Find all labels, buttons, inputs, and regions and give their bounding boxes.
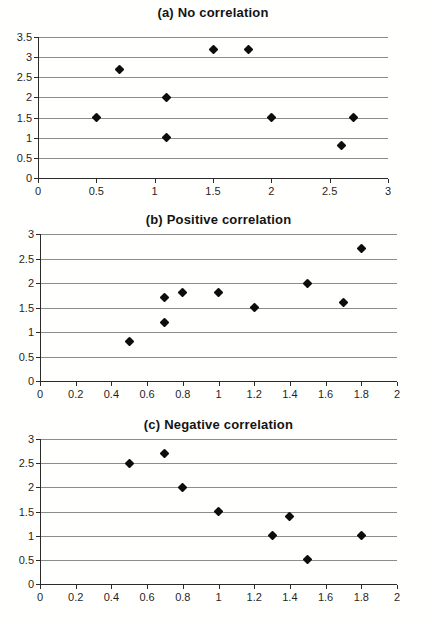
- data-point-diamond: [356, 244, 366, 254]
- gridline: [40, 308, 397, 309]
- data-point-diamond: [178, 482, 188, 492]
- data-point-diamond: [91, 113, 101, 123]
- gridline: [38, 37, 388, 38]
- y-axis-tick-label: 2: [0, 277, 34, 289]
- data-point-diamond: [249, 303, 259, 313]
- y-axis-tick-label: 2: [0, 91, 32, 103]
- x-axis-tick: [361, 585, 362, 589]
- y-axis-tick-label: 3.5: [0, 31, 32, 43]
- x-axis-tick: [213, 179, 214, 183]
- data-point-diamond: [356, 531, 366, 541]
- data-point-diamond: [338, 298, 348, 308]
- y-axis-tick: [34, 97, 38, 98]
- y-axis-tick-label: 1.5: [0, 112, 32, 124]
- y-axis-line: [40, 234, 41, 381]
- gridline: [40, 487, 397, 488]
- x-axis-tick: [183, 585, 184, 589]
- y-axis-tick-label: 3: [0, 51, 32, 63]
- data-point-diamond: [266, 113, 276, 123]
- data-point-diamond: [160, 293, 170, 303]
- y-axis-tick: [34, 118, 38, 119]
- gridline: [38, 77, 388, 78]
- chart-c-plot-area: 00.511.522.5300.20.40.60.811.21.41.61.82: [40, 439, 397, 584]
- y-axis-tick-label: 2.5: [0, 253, 34, 265]
- y-axis-tick-label: 2: [0, 481, 34, 493]
- gridline: [40, 439, 397, 440]
- y-axis-tick: [34, 77, 38, 78]
- data-point-diamond: [267, 531, 277, 541]
- x-axis-tick-label: 2: [375, 388, 419, 400]
- x-axis-tick: [290, 585, 291, 589]
- data-point-diamond: [243, 44, 253, 54]
- x-axis-tick: [38, 179, 39, 183]
- gridline: [38, 118, 388, 119]
- data-point-diamond: [214, 288, 224, 298]
- gridline: [38, 158, 388, 159]
- x-axis-tick: [361, 382, 362, 386]
- x-axis-tick: [330, 179, 331, 183]
- y-axis-tick: [36, 308, 40, 309]
- y-axis-tick-label: 3: [0, 433, 34, 445]
- x-axis-tick: [147, 585, 148, 589]
- x-axis-tick-label: 1.5: [191, 185, 235, 197]
- gridline: [38, 97, 388, 98]
- x-axis-tick: [40, 585, 41, 589]
- x-axis-tick: [76, 585, 77, 589]
- y-axis-tick: [36, 512, 40, 513]
- y-axis-tick: [34, 158, 38, 159]
- data-point-diamond: [285, 511, 295, 521]
- x-axis-tick: [388, 179, 389, 183]
- x-axis-tick: [326, 382, 327, 386]
- data-point-diamond: [124, 337, 134, 347]
- chart-b-title: (b) Positive correlation: [40, 212, 397, 227]
- y-axis-tick: [36, 283, 40, 284]
- x-axis-tick: [219, 585, 220, 589]
- x-axis-tick: [254, 585, 255, 589]
- x-axis-tick-label: 2.5: [308, 185, 352, 197]
- y-axis-tick: [36, 234, 40, 235]
- chart-a-title: (a) No correlation: [38, 5, 388, 20]
- gridline: [40, 259, 397, 260]
- x-axis-tick: [183, 382, 184, 386]
- gridline: [40, 536, 397, 537]
- gridline: [40, 357, 397, 358]
- x-axis-tick-label: 2: [375, 591, 419, 603]
- y-axis-tick: [36, 439, 40, 440]
- x-axis-tick-label: 3: [366, 185, 410, 197]
- y-axis-tick-label: 3: [0, 228, 34, 240]
- y-axis-tick-label: 0.5: [0, 554, 34, 566]
- x-axis-tick-label: 1: [133, 185, 177, 197]
- y-axis-tick-label: 0: [0, 172, 32, 184]
- data-point-diamond: [115, 64, 125, 74]
- y-axis-tick: [34, 57, 38, 58]
- y-axis-tick-label: 1: [0, 132, 32, 144]
- x-axis-tick: [111, 382, 112, 386]
- chart-b-plot-area: 00.511.522.5300.20.40.60.811.21.41.61.82: [40, 234, 397, 381]
- x-axis-tick: [76, 382, 77, 386]
- gridline: [40, 332, 397, 333]
- y-axis-tick-label: 1: [0, 530, 34, 542]
- chart-c-title: (c) Negative correlation: [40, 417, 397, 432]
- data-point-diamond: [348, 113, 358, 123]
- y-axis-tick-label: 0: [0, 375, 34, 387]
- data-point-diamond: [161, 92, 171, 102]
- y-axis-line: [40, 439, 41, 584]
- x-axis-tick: [96, 179, 97, 183]
- gridline: [40, 234, 397, 235]
- data-point-diamond: [303, 278, 313, 288]
- gridline: [40, 283, 397, 284]
- y-axis-tick: [36, 463, 40, 464]
- data-point-diamond: [208, 44, 218, 54]
- x-axis-tick: [397, 585, 398, 589]
- x-axis-tick-label: 0: [16, 185, 60, 197]
- data-point-diamond: [160, 449, 170, 459]
- correlation-scatter-figure: (a) No correlation 00.511.522.533.500.51…: [0, 0, 430, 621]
- y-axis-tick-label: 1.5: [0, 506, 34, 518]
- y-axis-tick: [36, 536, 40, 537]
- y-axis-tick-label: 2.5: [0, 457, 34, 469]
- chart-a-plot-area: 00.511.522.533.500.511.522.53: [38, 37, 388, 178]
- gridline: [38, 138, 388, 139]
- data-point-diamond: [214, 507, 224, 517]
- y-axis-tick-label: 1.5: [0, 302, 34, 314]
- x-axis-tick-label: 0.5: [74, 185, 118, 197]
